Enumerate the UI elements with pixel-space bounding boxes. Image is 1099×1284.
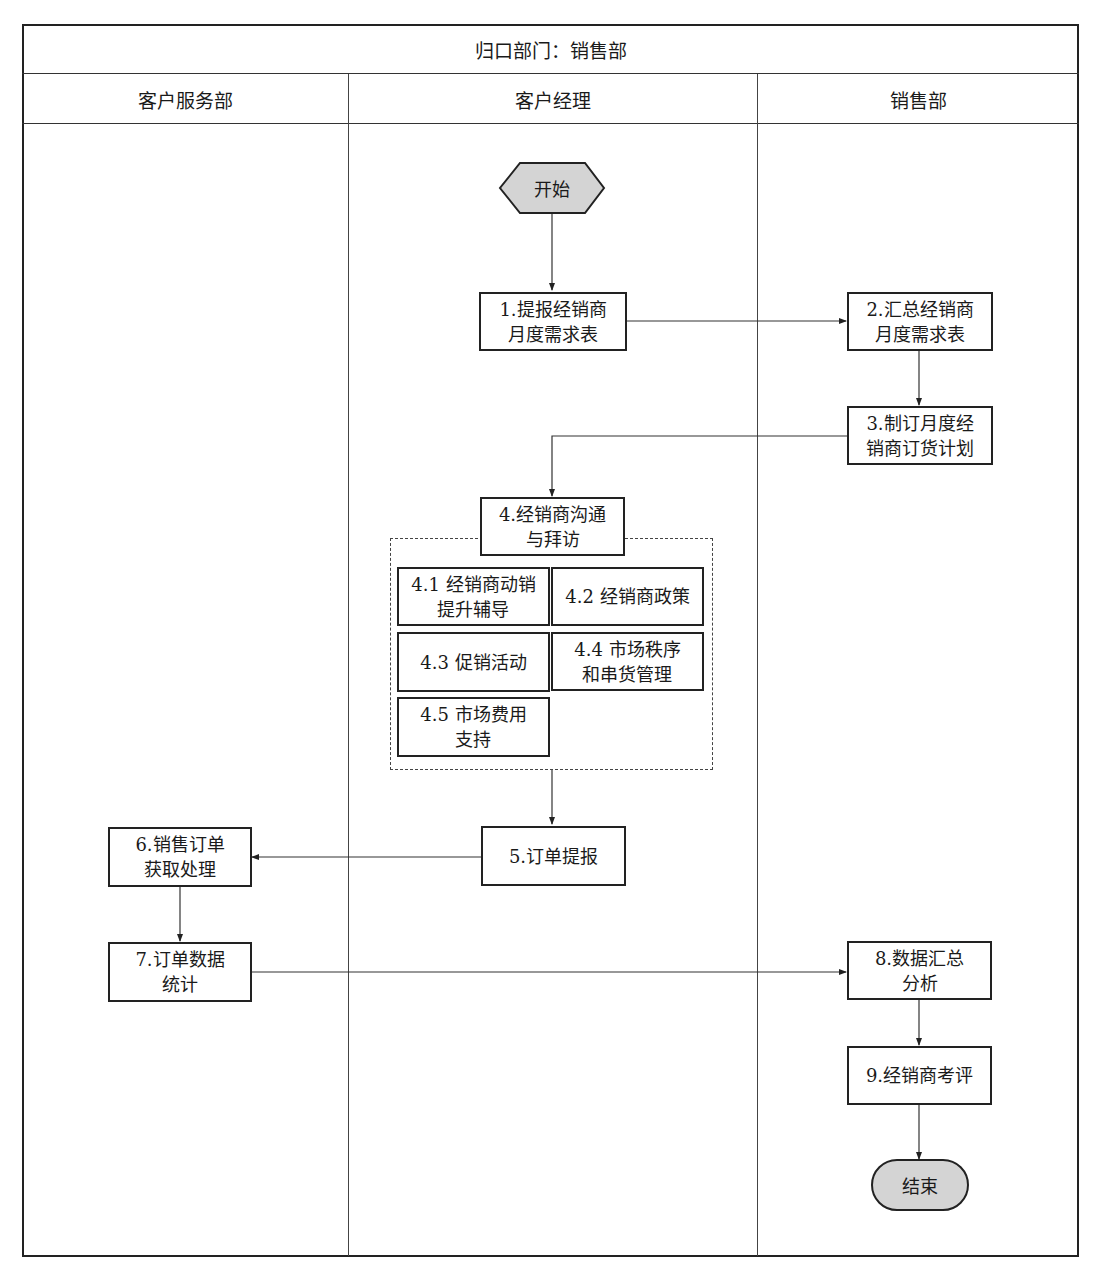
- step-9-dealer-evaluation: 9.经销商考评: [847, 1046, 992, 1105]
- lane-header-customer-service: 客户服务部: [22, 74, 348, 124]
- step-4-3-promotions: 4.3 促销活动: [397, 632, 550, 692]
- step-8-data-analysis: 8.数据汇总 分析: [847, 941, 992, 1000]
- step-5-order-submission: 5.订单提报: [481, 826, 626, 886]
- step-7-order-statistics: 7.订单数据 统计: [108, 942, 252, 1002]
- lane-header-sales-dept: 销售部: [757, 74, 1079, 124]
- lane-divider-1: [348, 74, 349, 1256]
- step-6-order-processing: 6.销售订单 获取处理: [108, 827, 252, 887]
- lane-header-account-manager: 客户经理: [348, 74, 757, 124]
- step-4-2-dealer-policy: 4.2 经销商政策: [551, 567, 704, 626]
- step-4-1-sales-coaching: 4.1 经销商动销 提升辅导: [397, 567, 550, 626]
- step-1-submit-dealer-demand: 1.提报经销商 月度需求表: [479, 292, 627, 351]
- start-node: 开始: [500, 163, 604, 213]
- step-4-5-marketing-expense: 4.5 市场费用 支持: [397, 697, 550, 757]
- lane-divider-2: [757, 74, 758, 1256]
- step-4-dealer-communication: 4.经销商沟通 与拜访: [480, 497, 625, 556]
- responsible-department-title: 归口部门：销售部: [22, 24, 1079, 74]
- step-2-summarize-dealer-demand: 2.汇总经销商 月度需求表: [847, 292, 993, 351]
- step-3-make-order-plan: 3.制订月度经 销商订货计划: [847, 406, 993, 465]
- step-4-4-market-order: 4.4 市场秩序 和串货管理: [551, 632, 704, 691]
- end-node: 结束: [872, 1160, 968, 1210]
